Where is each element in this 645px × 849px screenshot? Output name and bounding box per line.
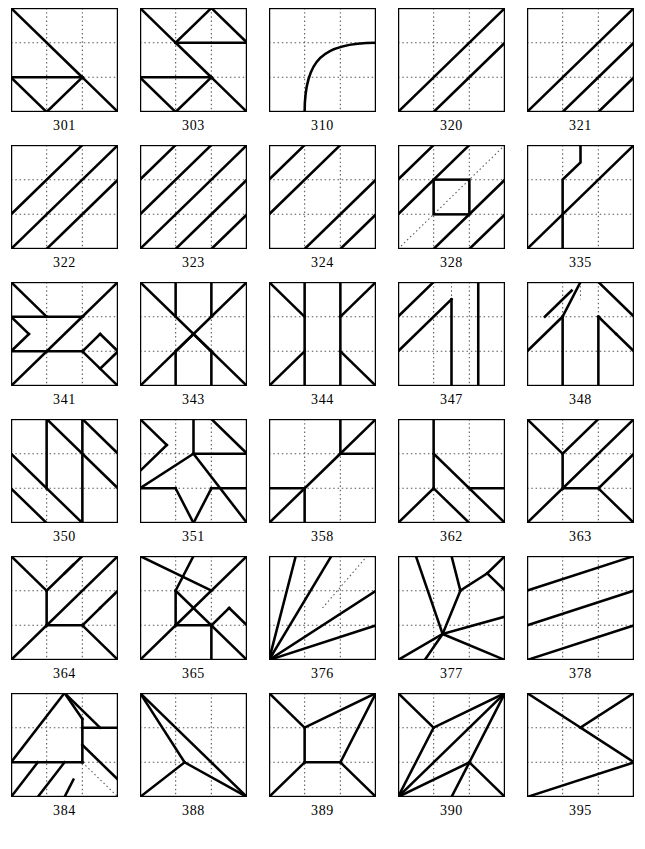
figure-cell: 341	[0, 282, 129, 419]
ink-lines	[398, 419, 505, 523]
ink-lines	[398, 8, 505, 112]
figure-cell: 364	[0, 556, 129, 693]
figure-cell: 347	[387, 282, 516, 419]
figure-label: 389	[311, 804, 334, 818]
ink-lines	[140, 282, 247, 386]
figure-box-388	[140, 693, 247, 797]
figure-svg-343	[140, 282, 247, 386]
figure-label: 395	[569, 804, 592, 818]
figure-label: 358	[311, 530, 334, 544]
figure-cell: 358	[258, 419, 387, 556]
figure-svg-363	[527, 419, 634, 523]
figure-box-364	[11, 556, 118, 660]
figure-svg-344	[269, 282, 376, 386]
ink-lines	[140, 693, 247, 797]
figure-cell: 310	[258, 8, 387, 145]
figure-label: 344	[311, 393, 334, 407]
dotted-lines	[398, 145, 505, 249]
figure-plate: 3013033103203213223233243283353413433443…	[0, 0, 645, 849]
figure-label: 365	[182, 667, 205, 681]
figure-box-324	[269, 145, 376, 249]
ink-lines	[527, 282, 634, 386]
figure-svg-324	[269, 145, 376, 249]
figure-box-389	[269, 693, 376, 797]
ink-lines	[269, 419, 376, 523]
figure-cell: 328	[387, 145, 516, 282]
figure-svg-335	[527, 145, 634, 249]
figure-svg-384	[11, 693, 118, 797]
ink-lines	[398, 556, 505, 660]
figure-svg-395	[527, 693, 634, 797]
figure-label: 328	[440, 256, 463, 270]
figure-box-344	[269, 282, 376, 386]
ink-lines	[305, 43, 376, 112]
figure-box-358	[269, 419, 376, 523]
figure-cell: 376	[258, 556, 387, 693]
figure-label: 390	[440, 804, 463, 818]
ink-lines	[11, 693, 118, 797]
figure-svg-303	[140, 8, 247, 112]
figure-border	[11, 419, 118, 523]
ink-lines	[527, 556, 634, 660]
ink-lines	[11, 419, 118, 523]
ink-lines	[11, 145, 118, 249]
figure-box-365	[140, 556, 247, 660]
guide-grid	[269, 145, 376, 249]
figure-box-384	[11, 693, 118, 797]
figure-label: 321	[569, 119, 592, 133]
ink-lines	[11, 8, 118, 112]
figure-label: 364	[53, 667, 76, 681]
figure-border	[269, 8, 376, 112]
figure-label: 323	[182, 256, 205, 270]
figure-svg-376	[269, 556, 376, 660]
figure-box-301	[11, 8, 118, 112]
ink-lines	[398, 282, 478, 386]
figure-box-390	[398, 693, 505, 797]
ink-lines	[140, 556, 247, 660]
figure-label: 320	[440, 119, 463, 133]
figure-cell: 384	[0, 693, 129, 830]
figure-label: 388	[182, 804, 205, 818]
figure-label: 310	[311, 119, 334, 133]
figure-box-395	[527, 693, 634, 797]
figure-box-347	[398, 282, 505, 386]
figure-box-328	[398, 145, 505, 249]
figure-svg-365	[140, 556, 247, 660]
ink-lines	[140, 8, 247, 112]
figure-svg-310	[269, 8, 376, 112]
figure-label: 335	[569, 256, 592, 270]
figure-cell: 389	[258, 693, 387, 830]
figure-box-351	[140, 419, 247, 523]
figure-cell: 303	[129, 8, 258, 145]
figure-label: 301	[53, 119, 76, 133]
figure-cell: 344	[258, 282, 387, 419]
guide-grid	[527, 693, 634, 797]
figure-svg-351	[140, 419, 247, 523]
figure-box-322	[11, 145, 118, 249]
figure-label: 324	[311, 256, 334, 270]
figure-cell: 362	[387, 419, 516, 556]
figure-cell: 363	[516, 419, 645, 556]
figure-svg-362	[398, 419, 505, 523]
ink-lines	[140, 419, 247, 523]
figure-box-376	[269, 556, 376, 660]
ink-lines	[398, 693, 505, 797]
figure-grid: 3013033103203213223233243283353413433443…	[0, 8, 645, 830]
ink-lines	[527, 8, 634, 112]
figure-box-341	[11, 282, 118, 386]
ink-lines	[11, 282, 118, 386]
ink-lines	[269, 693, 376, 797]
figure-svg-390	[398, 693, 505, 797]
figure-cell: 390	[387, 693, 516, 830]
figure-cell: 322	[0, 145, 129, 282]
figure-label: 348	[569, 393, 592, 407]
figure-border	[527, 693, 634, 797]
figure-cell: 335	[516, 145, 645, 282]
ink-lines	[527, 419, 634, 523]
figure-cell: 350	[0, 419, 129, 556]
figure-label: 322	[53, 256, 76, 270]
figure-svg-321	[527, 8, 634, 112]
figure-label: 363	[569, 530, 592, 544]
figure-box-321	[527, 8, 634, 112]
figure-label: 362	[440, 530, 463, 544]
